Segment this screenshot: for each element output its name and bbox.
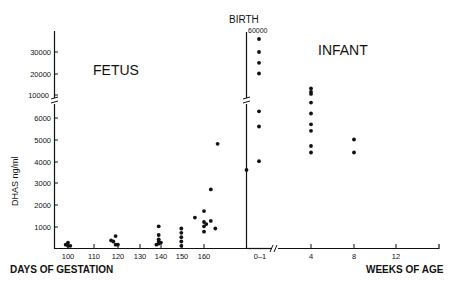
data-point (157, 233, 161, 237)
x-tick-0-1: 0–1 (254, 252, 267, 261)
data-point (257, 37, 261, 41)
x-tick-160: 160 (198, 252, 211, 261)
y-tick-10000: 10000 (28, 91, 49, 100)
data-point (114, 234, 118, 238)
data-point (116, 243, 120, 247)
data-point (352, 138, 356, 142)
chart-figure: 30000 20000 10000 6000 5000 4000 3000 20… (0, 0, 449, 281)
infant-label: INFANT (318, 42, 368, 58)
y-tick-2000: 2000 (34, 201, 51, 210)
data-point (157, 224, 161, 228)
data-point (352, 151, 356, 155)
data-point (257, 72, 261, 76)
data-point (68, 244, 72, 248)
y-tick-4000: 4000 (34, 158, 51, 167)
data-point (309, 92, 313, 96)
x-tick-8: 8 (352, 252, 356, 261)
data-point (257, 125, 261, 129)
data-point (309, 122, 313, 126)
data-point (193, 216, 197, 220)
x-tick-120: 120 (112, 252, 125, 261)
data-point (66, 241, 70, 245)
data-point (309, 151, 313, 155)
x-tick-140: 140 (155, 252, 168, 261)
data-point (213, 227, 217, 231)
data-point (155, 243, 159, 247)
x-tick-labels: 100 110 120 130 140 150 160 0–1 4 8 12 (62, 252, 400, 261)
data-point (257, 61, 261, 65)
x-tick-150: 150 (176, 252, 189, 261)
data-point (179, 231, 183, 235)
data-point (111, 240, 115, 244)
data-point (179, 244, 183, 248)
birth-max-value: 60000 (248, 27, 268, 34)
data-point (216, 142, 220, 146)
data-point (257, 159, 261, 163)
data-point (202, 230, 206, 234)
data-point (204, 222, 208, 226)
y-tick-1000: 1000 (34, 223, 51, 232)
birth-label: BIRTH (229, 14, 259, 25)
data-point (209, 219, 213, 223)
x-axis-label-gestation: DAYS OF GESTATION (10, 264, 113, 275)
x-tick-12: 12 (392, 252, 400, 261)
data-point (309, 144, 313, 148)
data-point (179, 240, 183, 244)
x-tick-100: 100 (62, 252, 75, 261)
data-point (257, 109, 261, 113)
data-point (309, 87, 313, 91)
x-axis-label-weeks: WEEKS OF AGE (366, 264, 444, 275)
y-tick-5000: 5000 (34, 136, 51, 145)
data-point (202, 209, 206, 213)
data-point (179, 235, 183, 239)
y-tick-20000: 20000 (30, 70, 51, 79)
data-point (159, 241, 163, 245)
data-point (309, 112, 313, 116)
y-tick-labels: 30000 20000 10000 6000 5000 4000 3000 20… (28, 48, 51, 232)
data-point (309, 101, 313, 105)
y-tick-3000: 3000 (34, 179, 51, 188)
data-point (209, 188, 213, 192)
x-tick-110: 110 (88, 252, 100, 261)
fetus-label: FETUS (93, 62, 139, 78)
axis-break-marks (51, 97, 277, 252)
x-tick-130: 130 (134, 252, 147, 261)
data-point (245, 168, 249, 172)
y-tick-30000: 30000 (30, 48, 51, 57)
y-axis-label: DHAS ng/ml (10, 156, 20, 206)
data-point (179, 227, 183, 231)
data-point (309, 129, 313, 133)
y-tick-6000: 6000 (34, 114, 51, 123)
data-point (257, 50, 261, 54)
chart-svg: 30000 20000 10000 6000 5000 4000 3000 20… (0, 0, 449, 281)
x-tick-4: 4 (309, 252, 313, 261)
